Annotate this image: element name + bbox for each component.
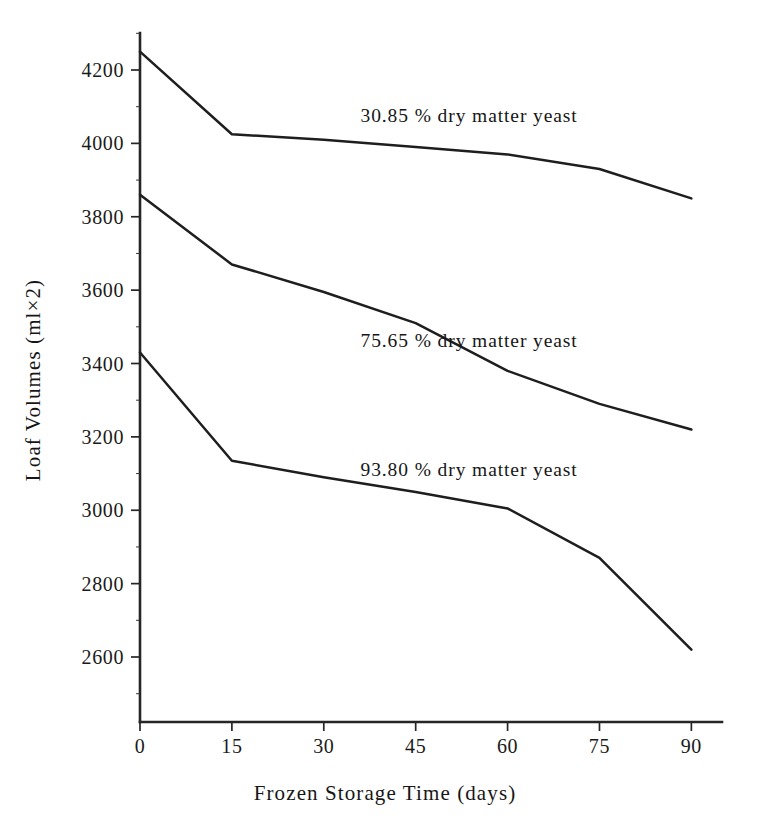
x-tick-label-30: 30 <box>313 735 334 757</box>
x-tick-label-45: 45 <box>405 735 426 757</box>
y-tick-label-2800: 2800 <box>82 573 124 595</box>
y-axis-ticks <box>131 70 140 657</box>
y-tick-label-3000: 3000 <box>82 499 124 521</box>
series-label-1: 75.65 % dry matter yeast <box>361 330 578 351</box>
y-axis-tick-labels: 260028003000320034003600380040004200 <box>82 59 124 668</box>
series-line-1 <box>140 195 691 430</box>
line-chart-canvas: 260028003000320034003600380040004200 015… <box>0 0 771 838</box>
y-tick-label-3200: 3200 <box>82 426 124 448</box>
x-axis-ticks <box>140 722 691 731</box>
y-tick-label-4000: 4000 <box>82 132 124 154</box>
x-tick-label-90: 90 <box>681 735 702 757</box>
y-tick-label-2600: 2600 <box>82 646 124 668</box>
x-axis-title: Frozen Storage Time (days) <box>254 781 517 805</box>
series-line-2 <box>140 352 691 649</box>
chart-figure: 260028003000320034003600380040004200 015… <box>0 0 771 838</box>
y-tick-label-3800: 3800 <box>82 206 124 228</box>
series-label-2: 93.80 % dry matter yeast <box>361 459 578 480</box>
x-tick-label-15: 15 <box>221 735 242 757</box>
y-tick-label-4200: 4200 <box>82 59 124 81</box>
x-axis-tick-labels: 0153045607590 <box>135 735 702 757</box>
x-tick-label-60: 60 <box>497 735 518 757</box>
x-tick-label-75: 75 <box>589 735 610 757</box>
series-label-0: 30.85 % dry matter yeast <box>361 105 578 126</box>
y-axis-title: Loaf Volumes (ml×2) <box>21 279 45 481</box>
x-tick-label-0: 0 <box>135 735 146 757</box>
y-tick-label-3400: 3400 <box>82 353 124 375</box>
y-tick-label-3600: 3600 <box>82 279 124 301</box>
